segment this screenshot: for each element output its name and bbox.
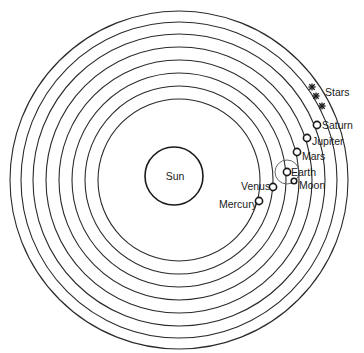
stars: Stars <box>308 83 349 109</box>
mars-marker <box>293 148 300 155</box>
body-earth: Earth <box>283 166 316 178</box>
body-mercury: Mercury <box>219 197 263 210</box>
sun: Sun <box>145 147 203 205</box>
earth-marker <box>283 168 290 175</box>
jupiter-marker <box>303 134 310 141</box>
body-jupiter: Jupiter <box>303 134 344 147</box>
body-mars: Mars <box>293 148 325 162</box>
moon-marker <box>291 178 297 184</box>
body-moon: Moon <box>291 178 325 191</box>
body-saturn: Saturn <box>313 119 353 131</box>
mars-label: Mars <box>302 150 325 162</box>
sun-label: Sun <box>166 170 185 182</box>
star-icon <box>312 92 319 99</box>
mercury-label: Mercury <box>219 198 258 210</box>
planets: MercuryVenusEarthMoonMarsJupiterSaturn <box>219 119 353 210</box>
moon-label: Moon <box>299 179 325 191</box>
body-venus: Venus <box>241 180 277 192</box>
solar-system-diagram: Sun MercuryVenusEarthMoonMarsJupiterSatu… <box>0 0 364 353</box>
saturn-label: Saturn <box>322 119 353 131</box>
saturn-marker <box>313 121 320 128</box>
star-icon <box>308 83 315 90</box>
venus-label: Venus <box>241 180 270 192</box>
venus-marker <box>269 183 276 190</box>
earth-label: Earth <box>291 166 316 178</box>
stars-label: Stars <box>325 86 350 98</box>
star-icon <box>318 102 325 109</box>
jupiter-label: Jupiter <box>312 135 344 147</box>
